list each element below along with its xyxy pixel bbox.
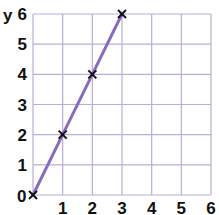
x-tick-label: 3 [117, 199, 126, 215]
x-tick-label: 5 [177, 199, 186, 215]
y-tick-label: 6 [18, 5, 27, 24]
x-tick-label: 4 [147, 199, 157, 215]
y-tick-label: 3 [18, 96, 27, 115]
x-tick-label: 1 [58, 199, 67, 215]
y-tick-label: 1 [18, 156, 27, 175]
y-axis-label: y [3, 6, 13, 25]
x-tick-label: 2 [88, 199, 97, 215]
chart: 0123456123456 y [0, 0, 219, 215]
x-tick-label: 6 [206, 199, 215, 215]
y-tick-label: 4 [18, 65, 28, 84]
origin-label: 0 [17, 187, 26, 206]
y-tick-label: 2 [18, 126, 27, 145]
tick-labels: 0123456123456 [17, 5, 216, 215]
grid [33, 14, 211, 195]
y-tick-label: 5 [18, 35, 27, 54]
